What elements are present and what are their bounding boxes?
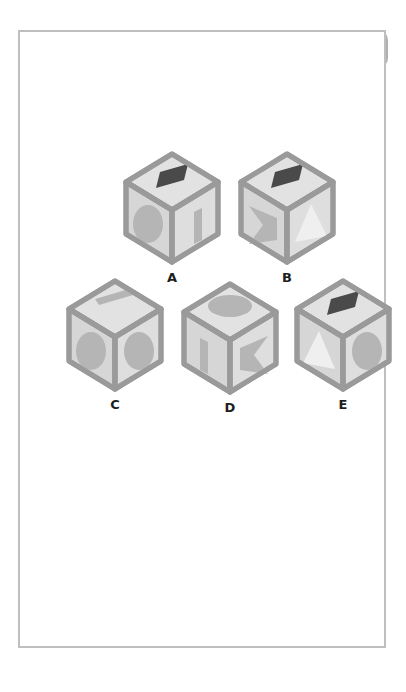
cube-option-label-d: D bbox=[170, 400, 290, 415]
cube-a-graphic bbox=[122, 150, 222, 266]
cube-e-graphic bbox=[293, 277, 393, 393]
left-face-bar-icon bbox=[200, 338, 208, 374]
cube-c-graphic bbox=[65, 277, 165, 393]
cube-option-label-c: C bbox=[55, 397, 175, 412]
puzzle-page: A B C bbox=[18, 30, 386, 648]
left-face-ellipse-icon bbox=[133, 205, 163, 243]
cube-option-e[interactable] bbox=[283, 277, 403, 393]
cube-d-graphic bbox=[180, 280, 280, 396]
right-face-bar-icon bbox=[194, 208, 202, 244]
cube-option-a[interactable] bbox=[112, 150, 232, 266]
right-face-ellipse-icon bbox=[124, 332, 154, 370]
top-face-ellipse-icon bbox=[208, 295, 252, 317]
cube-b-graphic bbox=[237, 150, 337, 266]
cube-option-label-e: E bbox=[283, 397, 403, 412]
right-face-ellipse-icon bbox=[352, 332, 382, 370]
cube-option-c[interactable] bbox=[55, 277, 175, 393]
cube-option-d[interactable] bbox=[170, 280, 290, 396]
left-face-ellipse-icon bbox=[76, 332, 106, 370]
cube-options-area: A B C bbox=[20, 32, 388, 650]
cube-option-b[interactable] bbox=[227, 150, 347, 266]
